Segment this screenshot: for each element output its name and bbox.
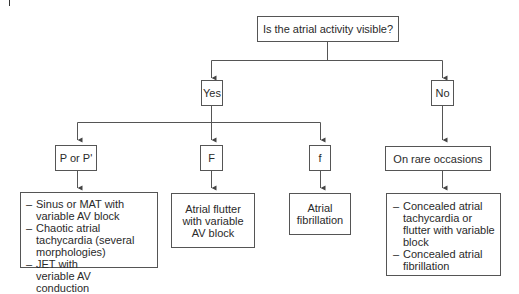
- fibrillation-wave-box: f: [309, 145, 331, 171]
- concealed-result-item: Concealed atrial fibrillation: [393, 248, 496, 272]
- no-box: No: [431, 80, 454, 106]
- concealed-result-box: Concealed atrial tachycardia or flutter …: [386, 193, 501, 276]
- p-wave-result-box: Sinus or MAT with variable AV block Chao…: [20, 192, 158, 268]
- fibrillation-wave-label: f: [318, 152, 321, 164]
- rare-occasions-box: On rare occasions: [385, 146, 491, 171]
- flutter-wave-box: F: [200, 145, 223, 171]
- flutter-result-text: Atrial flutter with variable AV block: [180, 203, 246, 239]
- p-wave-result-item: Chaotic atrial tachycardia (several morp…: [26, 222, 153, 258]
- yes-label: Yes: [203, 87, 221, 99]
- p-wave-box: P or P': [55, 145, 97, 171]
- p-wave-result-item: JET with veriable AV conduction: [26, 258, 153, 294]
- fibrillation-result-box: Atrial fibrillation: [289, 193, 351, 235]
- flutter-wave-label: F: [208, 152, 215, 164]
- p-wave-result-item: Sinus or MAT with variable AV block: [26, 198, 153, 222]
- concealed-result-item: Concealed atrial tachycardia or flutter …: [393, 200, 496, 248]
- fibrillation-result-text: Atrial fibrillation: [294, 202, 346, 226]
- root-question-text: Is the atrial activity visible?: [263, 23, 393, 35]
- yes-box: Yes: [201, 80, 223, 106]
- flutter-result-box: Atrial flutter with variable AV block: [171, 193, 255, 248]
- p-wave-label: P or P': [60, 152, 92, 164]
- no-label: No: [435, 87, 449, 99]
- root-question-box: Is the atrial activity visible?: [257, 16, 399, 42]
- rare-occasions-label: On rare occasions: [393, 153, 482, 165]
